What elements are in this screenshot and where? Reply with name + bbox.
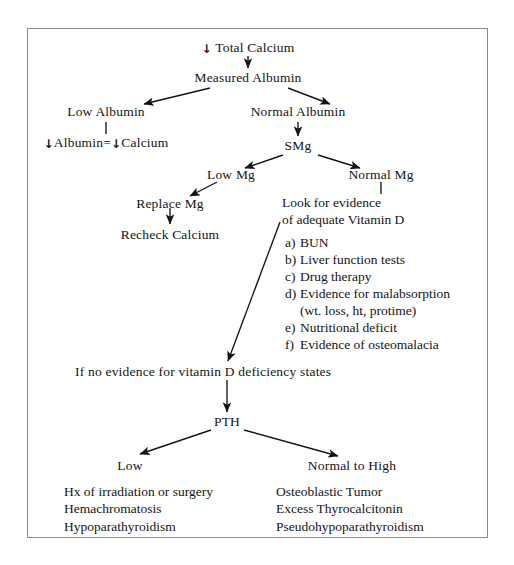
low-pth-causes-list: Hx of irradiation or surgeryHemachromato… (64, 483, 213, 535)
equals-sign: = (103, 135, 111, 150)
cause-item: Osteoblastic Tumor (276, 483, 424, 500)
node-low-label: Low (117, 458, 142, 473)
evidence-item-marker: b) (285, 252, 300, 269)
node-pth: PTH (214, 414, 240, 430)
connector-measured-albumin-to-normal-albumin (288, 88, 330, 104)
evidence-item-marker: a) (285, 235, 300, 252)
node-no-evidence-statement: If no evidence for vitamin D deficiency … (75, 364, 331, 380)
connector-low-mg-to-replace-mg (190, 182, 217, 196)
down-arrow-icon-2: ↓ (111, 137, 121, 151)
node-measured-albumin: Measured Albumin (194, 70, 301, 86)
down-arrow-icon: ↓ (44, 137, 54, 151)
high-pth-causes-list: Osteoblastic TumorExcess Thyrocalcitonin… (276, 483, 424, 535)
evidence-item-marker: d) (285, 286, 300, 303)
evidence-checklist: a)BUNb)Liver function testsc)Drug therap… (285, 235, 450, 354)
node-low-mg: Low Mg (207, 167, 255, 183)
albumin-label: Albumin (54, 135, 103, 150)
node-normal-mg: Normal Mg (348, 167, 413, 183)
calcium-label: Calcium (121, 135, 168, 150)
connector-pth-to-normal-to-high (244, 430, 338, 456)
evidence-item: d)Evidence for malabsorption (285, 286, 450, 303)
node-smg: SMg (285, 138, 312, 154)
connector-measured-albumin-to-low-albumin (144, 88, 210, 104)
evidence-item: c)Drug therapy (285, 269, 450, 286)
look-for-evidence-line-2: of adequate Vitamin D (282, 211, 404, 228)
cause-item: Hypoparathyroidism (64, 518, 213, 535)
node-low-albumin-label: Low Albumin (67, 104, 145, 119)
evidence-item-text: Drug therapy (300, 269, 372, 284)
node-low-albumin: Low Albumin (67, 104, 145, 120)
evidence-item: b)Liver function tests (285, 252, 450, 269)
node-pth-label: PTH (214, 414, 240, 429)
diagram-canvas: ↓ Total Calcium Measured Albumin Low Alb… (0, 0, 514, 565)
evidence-item: a)BUN (285, 235, 450, 252)
connector-pth-to-low (140, 430, 211, 454)
node-smg-label: SMg (285, 138, 312, 153)
node-low: Low (117, 458, 142, 474)
evidence-item-text: Liver function tests (300, 252, 405, 267)
evidence-item: (wt. loss, ht, protime) (285, 303, 450, 320)
evidence-item-text: Evidence for malabsorption (300, 286, 450, 301)
look-for-evidence-line-1: Look for evidence (282, 194, 404, 211)
evidence-item-text: (wt. loss, ht, protime) (300, 303, 416, 318)
cause-item: Hemachromatosis (64, 500, 213, 517)
evidence-item-marker: c) (285, 269, 300, 286)
evidence-item-text: Nutritional deficit (300, 320, 397, 335)
node-normal-to-high: Normal to High (308, 458, 396, 474)
evidence-item: f)Evidence of osteomalacia (285, 337, 450, 354)
node-albumin-equals-calcium: ↓Albumin=↓Calcium (44, 135, 169, 151)
node-total-calcium: ↓ Total Calcium (202, 40, 295, 56)
node-total-calcium-label: Total Calcium (215, 40, 294, 55)
no-evidence-label: If no evidence for vitamin D deficiency … (75, 364, 331, 379)
node-replace-mg-label: Replace Mg (136, 196, 204, 211)
cause-item: Excess Thyrocalcitonin (276, 500, 424, 517)
node-normal-albumin: Normal Albumin (251, 104, 346, 120)
connector-evidence-to-no-evidence (228, 222, 280, 361)
cause-item: Hx of irradiation or surgery (64, 483, 213, 500)
cause-item: Pseudohypoparathyroidism (276, 518, 424, 535)
evidence-item-text: BUN (300, 235, 329, 250)
node-look-for-evidence: Look for evidence of adequate Vitamin D (282, 194, 404, 229)
node-recheck-calcium-label: Recheck Calcium (121, 227, 220, 242)
node-recheck-calcium: Recheck Calcium (121, 227, 220, 243)
evidence-item-marker: f) (285, 337, 300, 354)
node-measured-albumin-label: Measured Albumin (194, 70, 301, 85)
node-replace-mg: Replace Mg (136, 196, 204, 212)
node-low-mg-label: Low Mg (207, 167, 255, 182)
down-arrow-icon: ↓ (202, 42, 212, 56)
node-normal-albumin-label: Normal Albumin (251, 104, 346, 119)
node-normal-to-high-label: Normal to High (308, 458, 396, 473)
evidence-item-text: Evidence of osteomalacia (300, 337, 439, 352)
evidence-item-marker: e) (285, 320, 300, 337)
evidence-item: e)Nutritional deficit (285, 320, 450, 337)
node-normal-mg-label: Normal Mg (348, 167, 413, 182)
